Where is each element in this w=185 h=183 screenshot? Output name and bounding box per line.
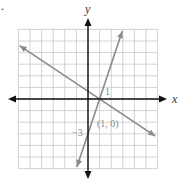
y-intercept-label: −3: [72, 127, 83, 138]
y-axis-up-arrow-icon: [85, 18, 92, 26]
arrowhead-icon: [20, 46, 27, 52]
x-axis-label: x: [171, 92, 178, 106]
arrowhead-icon: [76, 159, 82, 167]
coordinate-plane: . y x 1 (1, 0) −3: [0, 0, 185, 183]
y-axis-label: y: [84, 2, 91, 16]
x-axis-right-arrow-icon: [159, 96, 167, 103]
label-one: 1: [105, 86, 110, 97]
corner-mark: .: [1, 0, 4, 13]
x-axis-left-arrow-icon: [8, 96, 16, 103]
arrowhead-icon: [148, 130, 155, 136]
point-label: (1, 0): [97, 118, 119, 130]
arrowhead-icon: [117, 31, 123, 39]
y-axis-down-arrow-icon: [85, 171, 92, 179]
